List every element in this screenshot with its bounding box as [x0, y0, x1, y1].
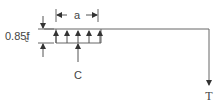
- stress-block-diagram: a 0.85f′c C T: [0, 0, 220, 108]
- compression-label: C: [74, 69, 82, 81]
- tension-force: T: [205, 29, 213, 103]
- compression-force: C: [74, 44, 82, 81]
- stress-label: 0.85f′c: [5, 30, 30, 43]
- dimension-a-label: a: [74, 9, 81, 21]
- tension-label: T: [205, 89, 213, 103]
- stress-block: [56, 29, 101, 43]
- dimension-stress: 0.85f′c: [5, 16, 54, 57]
- dimension-a: a: [56, 9, 98, 22]
